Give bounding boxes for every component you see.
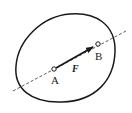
force-diagram: A B F bbox=[0, 0, 132, 113]
point-a-marker bbox=[52, 67, 56, 71]
force-label: F bbox=[71, 63, 79, 74]
point-b-label: B bbox=[95, 50, 102, 62]
point-b-marker bbox=[96, 42, 100, 46]
point-a-label: A bbox=[51, 74, 59, 86]
